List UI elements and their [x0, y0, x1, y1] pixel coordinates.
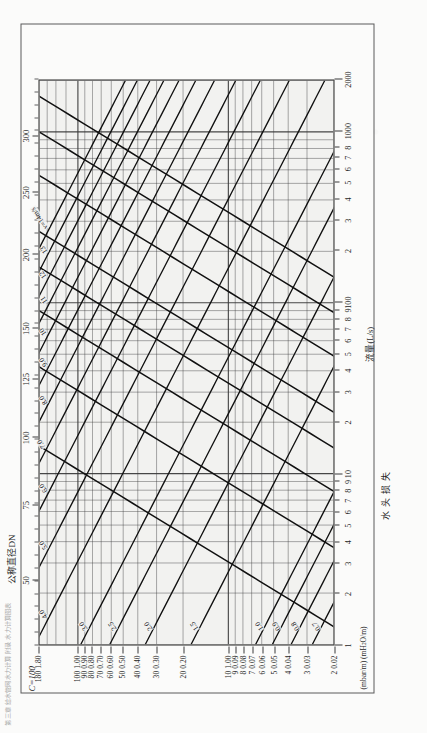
- flow-axis-tick-label: 3: [343, 390, 352, 394]
- flow-axis-tick-label: 2: [343, 591, 352, 595]
- dn-axis-minor-tick: [34, 580, 38, 581]
- flow-axis-tick: [334, 353, 339, 354]
- flow-axis-tick: [334, 644, 342, 645]
- dn-axis-minor-tick: [34, 91, 38, 92]
- dn-axis-minor-tick: [34, 438, 38, 439]
- flow-axis-tick-label: 2000: [343, 71, 352, 87]
- flow-axis-tick: [334, 219, 339, 220]
- flow-axis-tick-label: 9: [343, 479, 352, 483]
- dn-axis-minor-tick: [34, 464, 38, 465]
- flow-axis-tick: [334, 328, 339, 329]
- flow-axis-tick-label: 7: [343, 327, 352, 331]
- flow-axis-tick: [334, 511, 339, 512]
- dn-axis-minor-tick: [34, 618, 38, 619]
- flow-axis-tick-label: 8: [343, 488, 352, 492]
- flow-axis-tick-label: 6: [343, 510, 352, 514]
- dn-axis-minor-tick: [34, 451, 38, 452]
- flow-axis-tick: [334, 181, 339, 182]
- dn-axis-tick: [32, 253, 38, 254]
- flow-axis-tick: [334, 489, 339, 490]
- dn-axis-minor-tick: [34, 515, 38, 516]
- dn-axis-minor-tick: [34, 490, 38, 491]
- headloss-axis-tick-label: 6 0.06: [257, 655, 266, 674]
- dn-axis-minor-tick: [34, 297, 38, 298]
- flow-axis-tick-label: 100: [343, 296, 352, 308]
- dn-axis-minor-tick: [34, 374, 38, 375]
- dn-axis-minor-tick: [34, 477, 38, 478]
- headloss-axis-caption: 水头损失: [378, 467, 391, 519]
- dn-axis-minor-tick: [34, 412, 38, 413]
- headloss-axis-tick-label: 5 0.05: [269, 655, 278, 674]
- headloss-axis-tick-label: 8 0.08: [238, 655, 247, 674]
- headloss-axis-tick-label: 70 0.70: [96, 655, 105, 678]
- headloss-axis-tick: [334, 646, 335, 653]
- headloss-axis-tick-label: 50 0.50: [118, 655, 127, 678]
- dn-axis-tick-label: 300: [20, 129, 30, 142]
- headloss-axis-tick: [252, 646, 253, 653]
- headloss-axis-tick-label: 30 0.30: [151, 655, 160, 678]
- flow-axis-tick: [334, 369, 339, 370]
- dn-axis-minor-tick: [34, 117, 38, 118]
- flow-axis-tick-label: 8: [343, 145, 352, 149]
- dn-axis-minor-tick: [34, 78, 38, 79]
- flow-axis-tick: [334, 421, 339, 422]
- headloss-axis-tick: [137, 646, 138, 653]
- dn-axis: 5075100125150200250300: [22, 79, 38, 645]
- dn-axis-minor-tick: [34, 631, 38, 632]
- flow-axis-tick-label: 3: [343, 561, 352, 565]
- dn-axis-minor-tick: [34, 605, 38, 606]
- headloss-axis-tick: [235, 646, 236, 653]
- dn-axis-minor-tick: [34, 503, 38, 504]
- figure-page: 第三章 给水管网水力计算 附录 水力计算图表 C=100 公称直径DN 流量(L…: [0, 0, 427, 733]
- headloss-axis-tick: [274, 646, 275, 653]
- flow-axis: 1234567891023456789100234567810002000: [334, 79, 358, 645]
- flow-axis-tick-label: 3: [343, 218, 352, 222]
- dn-axis-minor-tick: [34, 335, 38, 336]
- flow-axis-tick: [334, 198, 339, 199]
- headloss-axis-tick: [307, 646, 308, 653]
- flow-axis-tick-label: 5: [343, 523, 352, 527]
- headloss-axis-tick-label: 4 0.04: [284, 655, 293, 674]
- headloss-axis-tick: [38, 646, 39, 653]
- flow-axis-tick: [334, 130, 342, 131]
- flow-axis-tick: [334, 339, 339, 340]
- flow-axis-tick-label: 5: [343, 352, 352, 356]
- headloss-axis-tick: [77, 646, 78, 653]
- flow-axis-tick-label: 8: [343, 317, 352, 321]
- flow-axis-tick: [334, 473, 342, 474]
- flow-axis-tick: [334, 592, 339, 593]
- headloss-axis-tick: [110, 646, 111, 653]
- dn-axis-minor-tick: [34, 245, 38, 246]
- headloss-axis-tick: [156, 646, 157, 653]
- headloss-axis-tick: [122, 646, 123, 653]
- dn-axis-minor-tick: [34, 181, 38, 182]
- flow-axis-tick-label: 7: [343, 155, 352, 159]
- headloss-axis-tick: [228, 646, 229, 653]
- flow-axis-tick: [334, 78, 342, 79]
- headloss-axis-tick-label: 60 0.60: [106, 655, 115, 678]
- flow-axis-tick: [334, 309, 339, 310]
- dn-axis-caption: 公称直径DN: [4, 534, 17, 583]
- dn-axis-minor-tick: [34, 104, 38, 105]
- dn-axis-minor-tick: [34, 554, 38, 555]
- headloss-units-label: (mbar/m) (mH2O/m): [358, 626, 367, 689]
- flow-axis-tick-label: 10: [343, 469, 352, 477]
- headloss-axis-tick-label: 7 0.07: [247, 655, 256, 674]
- running-header: 第三章 给水管网水力计算 附录 水力计算图表: [2, 25, 11, 725]
- dn-axis-minor-tick: [34, 310, 38, 311]
- flow-axis-tick-label: 7: [343, 498, 352, 502]
- dn-axis-minor-tick: [34, 593, 38, 594]
- dn-axis-tick-label: 200: [20, 248, 30, 261]
- flow-axis-tick-label: 5: [343, 180, 352, 184]
- headloss-axis-tick-label: 2 0.02: [330, 655, 339, 674]
- flow-axis-tick: [334, 249, 339, 250]
- flow-axis-tick: [334, 168, 339, 169]
- headloss-axis-tick: [243, 646, 244, 653]
- flow-axis-tick-label: 1: [343, 643, 352, 647]
- headloss-axis-tick: [100, 646, 101, 653]
- headloss-axis-tick: [84, 646, 85, 653]
- dn-axis-minor-tick: [34, 232, 38, 233]
- dn-axis-tick: [32, 327, 38, 328]
- flow-axis-tick-label: 6: [343, 338, 352, 342]
- dn-axis-tick: [32, 436, 38, 437]
